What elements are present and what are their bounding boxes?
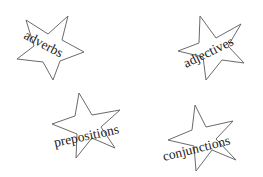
parts-of-speech-stars: adverbs adjectives prepositions conjunct… (0, 0, 263, 177)
star-adjectives: adjectives (178, 16, 244, 80)
star-conjunctions: conjunctions (161, 105, 236, 171)
star-prepositions: prepositions (52, 93, 120, 158)
star-adverbs: adverbs (17, 16, 84, 80)
